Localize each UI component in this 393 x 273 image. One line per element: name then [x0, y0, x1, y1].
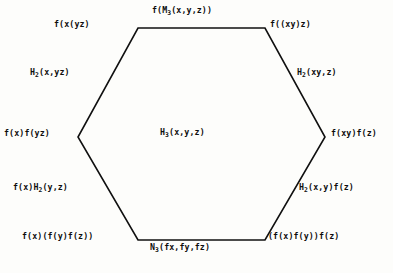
- vertex-right-text: f(xy)f(z): [331, 128, 377, 138]
- edge-upper-right-sub: 2: [302, 71, 306, 79]
- edge-label-bottom: N3(fx,fy,fz): [150, 243, 210, 252]
- edge-bottom-sub: 3: [155, 246, 159, 254]
- edge-label-top: f(M3(x,y,z)): [152, 6, 212, 15]
- vertex-top-left-text: f(x(yz): [54, 19, 90, 29]
- edge-label-lower-right: H2(x,y)f(z): [299, 183, 354, 192]
- edge-bottom-tail: (fx,fy,fz): [159, 242, 210, 252]
- edge-lower-left-sub: 2: [38, 186, 42, 194]
- edge-upper-left-sub: 2: [35, 71, 39, 79]
- edge-lower-left-tail: (y,z): [42, 182, 67, 192]
- edge-lower-right-tail: (x,y)f(z): [308, 182, 354, 192]
- edge-top-main: f(M: [152, 5, 167, 15]
- vertex-bottom-right-text: (f(x)f(y))f(z): [268, 231, 339, 241]
- center-sub: 3: [165, 131, 169, 139]
- vertex-label-bottom-right: (f(x)f(y))f(z): [268, 232, 339, 241]
- edge-upper-right-tail: (xy,z): [306, 67, 337, 77]
- vertex-label-top-right: f((xy)z): [270, 20, 311, 29]
- edge-upper-left-tail: (x,yz): [39, 67, 70, 77]
- edge-label-upper-left: H2(x,yz): [30, 68, 70, 77]
- edge-label-upper-right: H2(xy,z): [297, 68, 337, 77]
- edge-top-tail: (x,y,z)): [171, 5, 212, 15]
- vertex-label-bottom-left: f(x)(f(y)f(z)): [22, 232, 93, 241]
- vertex-left-text: f(x)f(yz): [4, 128, 50, 138]
- diagram-canvas: f(x(yz) f((xy)z) f(x)f(yz) f(xy)f(z) f(x…: [0, 0, 393, 273]
- vertex-label-right: f(xy)f(z): [331, 129, 377, 138]
- vertex-label-left: f(x)f(yz): [4, 129, 50, 138]
- edge-lower-left-main: f(x)H: [13, 182, 38, 192]
- center-tail: (x,y,z): [169, 127, 205, 137]
- edge-label-lower-left: f(x)H2(y,z): [13, 183, 68, 192]
- vertex-label-top-left: f(x(yz): [54, 20, 90, 29]
- edge-top-sub: 3: [167, 9, 171, 17]
- vertex-bottom-left-text: f(x)(f(y)f(z)): [22, 231, 93, 241]
- edge-lower-right-sub: 2: [304, 186, 308, 194]
- center-label: H3(x,y,z): [160, 128, 205, 137]
- vertex-top-right-text: f((xy)z): [270, 19, 311, 29]
